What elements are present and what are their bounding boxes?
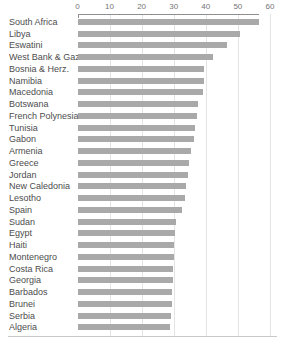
- bar: [78, 31, 241, 37]
- category-label: Brunei: [9, 299, 35, 309]
- bar-row: Sudan: [0, 216, 283, 228]
- bar-row: Georgia: [0, 275, 283, 287]
- axis-tick-label: 40: [201, 2, 210, 12]
- bar-row: Algeria: [0, 322, 283, 334]
- category-label: Montenegro: [9, 252, 57, 262]
- bar: [78, 277, 173, 283]
- bar-row: Bosnia & Herz.: [0, 63, 283, 75]
- category-label: Lesotho: [9, 193, 41, 203]
- category-label: Jordan: [9, 170, 37, 180]
- category-label: Namibia: [9, 76, 42, 86]
- category-label: Costa Rica: [9, 264, 53, 274]
- chart-rows: South AfricaLibyaEswatiniWest Bank & Gaz…: [0, 16, 283, 333]
- axis-tick-label: 50: [233, 2, 242, 12]
- bar-row: Armenia: [0, 145, 283, 157]
- bar: [78, 101, 199, 107]
- bar: [78, 313, 172, 319]
- bar-row: Haiti: [0, 239, 283, 251]
- axis-tick-label: 30: [169, 2, 178, 12]
- bar: [78, 19, 259, 25]
- bar: [78, 136, 194, 142]
- bar: [78, 207, 183, 213]
- bar: [78, 148, 192, 154]
- category-label: Armenia: [9, 146, 43, 156]
- chart-bottom-border: [8, 336, 277, 337]
- bar: [78, 172, 189, 178]
- bar: [78, 125, 195, 131]
- bar-row: Montenegro: [0, 251, 283, 263]
- bar-row: Barbados: [0, 286, 283, 298]
- axis-tick-label: 10: [105, 2, 114, 12]
- bar: [78, 89, 203, 95]
- bar: [78, 230, 175, 236]
- axis-tick-label: 0: [75, 2, 79, 12]
- bar-row: Eswatini: [0, 40, 283, 52]
- category-label: Bosnia & Herz.: [9, 64, 69, 74]
- bar: [78, 301, 172, 307]
- bar: [78, 54, 214, 60]
- bar: [78, 254, 175, 260]
- bar: [78, 219, 177, 225]
- bar: [78, 183, 186, 189]
- category-label: Greece: [9, 158, 39, 168]
- category-label: Georgia: [9, 275, 41, 285]
- bar-row: Serbia: [0, 310, 283, 322]
- category-label: South Africa: [9, 17, 58, 27]
- bar-row: French Polynesia: [0, 110, 283, 122]
- category-label: Algeria: [9, 322, 37, 332]
- category-label: Eswatini: [9, 40, 43, 50]
- bar-row: Spain: [0, 204, 283, 216]
- axis-tick-label: 20: [137, 2, 146, 12]
- category-label: Serbia: [9, 311, 35, 321]
- category-label: Gabon: [9, 134, 36, 144]
- category-label: West Bank & Gaza: [9, 52, 85, 62]
- category-label: Barbados: [9, 287, 48, 297]
- category-label: Botswana: [9, 99, 49, 109]
- bar-row: Botswana: [0, 98, 283, 110]
- bar-row: Gabon: [0, 134, 283, 146]
- bar-row: Tunisia: [0, 122, 283, 134]
- bar: [78, 266, 174, 272]
- category-label: French Polynesia: [9, 111, 79, 121]
- bar: [78, 195, 186, 201]
- bar-row: Namibia: [0, 75, 283, 87]
- bar: [78, 78, 204, 84]
- bar-row: Egypt: [0, 228, 283, 240]
- category-label: Sudan: [9, 217, 35, 227]
- bar-row: Libya: [0, 28, 283, 40]
- bar-row: Costa Rica: [0, 263, 283, 275]
- value-axis: 0102030405060: [78, 2, 270, 12]
- bar-row: South Africa: [0, 16, 283, 28]
- axis-line: [78, 14, 259, 15]
- bar: [78, 160, 190, 166]
- bar-row: West Bank & Gaza: [0, 51, 283, 63]
- bar-chart: 0102030405060 South AfricaLibyaEswatiniW…: [0, 0, 283, 340]
- category-label: Haiti: [9, 240, 27, 250]
- bar: [78, 289, 173, 295]
- category-label: Macedonia: [9, 87, 53, 97]
- bar-row: Brunei: [0, 298, 283, 310]
- bar-row: Lesotho: [0, 192, 283, 204]
- bar: [78, 66, 205, 72]
- category-label: Libya: [9, 29, 31, 39]
- category-label: New Caledonia: [9, 181, 70, 191]
- category-label: Tunisia: [9, 123, 38, 133]
- bar: [78, 242, 175, 248]
- bar: [78, 42, 227, 48]
- bar-row: Macedonia: [0, 87, 283, 99]
- category-label: Spain: [9, 205, 32, 215]
- bar: [78, 324, 171, 330]
- bar: [78, 113, 197, 119]
- axis-tick-label: 60: [265, 2, 274, 12]
- bar-row: Greece: [0, 157, 283, 169]
- category-label: Egypt: [9, 228, 32, 238]
- bar-row: Jordan: [0, 169, 283, 181]
- bar-row: New Caledonia: [0, 181, 283, 193]
